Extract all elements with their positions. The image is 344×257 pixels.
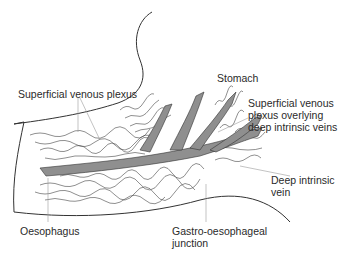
label-stomach: Stomach — [217, 72, 258, 84]
label-oesophagus: Oesophagus — [20, 225, 80, 237]
label-superficial-plexus-overlying-deep-veins: Superficial venous plexus overlying deep… — [248, 97, 337, 133]
deep-intrinsic-veins — [40, 92, 262, 176]
label-deep-intrinsic-vein: Deep intrinsic vein — [271, 174, 335, 198]
label-gastro-oesophageal-junction: Gastro-oesophageal junction — [172, 225, 267, 249]
label-superficial-venous-plexus: Superficial venous plexus — [18, 88, 137, 100]
